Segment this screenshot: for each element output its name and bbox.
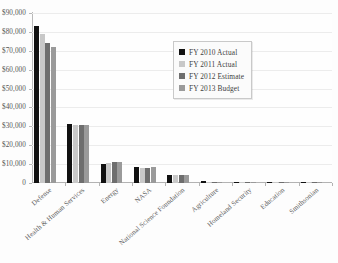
- bar: [306, 182, 311, 183]
- bar: [101, 164, 106, 183]
- y-axis-tick: [29, 51, 32, 52]
- bar: [284, 182, 289, 183]
- y-axis-line: [32, 12, 33, 183]
- bar: [217, 182, 222, 184]
- y-axis-tick: [29, 126, 32, 127]
- y-axis-tick: [29, 183, 32, 184]
- x-axis-label: Energy: [99, 186, 120, 206]
- bar: [234, 182, 239, 183]
- chart-legend: FY 2010 ActualFY 2011 ActualFY 2012 Esti…: [173, 41, 252, 99]
- legend-swatch-icon: [179, 49, 185, 55]
- x-axis-tick: [132, 183, 133, 186]
- y-axis-tick: [29, 13, 32, 14]
- x-axis-label: Defense: [30, 186, 53, 208]
- y-axis-tick: [29, 145, 32, 146]
- x-axis-label: National Science Foundation: [118, 186, 187, 247]
- legend-label: FY 2012 Estimate: [189, 72, 244, 81]
- legend-item[interactable]: FY 2010 Actual: [179, 46, 244, 58]
- bar: [206, 182, 211, 183]
- bar: [134, 167, 139, 183]
- bar: [279, 182, 284, 183]
- legend-label: FY 2010 Actual: [189, 48, 237, 57]
- x-axis-label: Agriculture: [189, 186, 219, 214]
- y-axis-label: $10,000: [0, 160, 26, 168]
- bar: [145, 168, 150, 183]
- bar: [151, 167, 156, 183]
- x-axis-tick: [232, 183, 233, 186]
- x-axis-label-anchor: Homeland Security: [248, 186, 249, 187]
- bar: [267, 182, 272, 183]
- legend-item[interactable]: FY 2012 Estimate: [179, 70, 244, 82]
- legend-item[interactable]: FY 2013 Budget: [179, 82, 244, 94]
- bar: [51, 47, 56, 183]
- x-axis-label-anchor: Defense: [48, 186, 49, 187]
- bar: [201, 181, 206, 183]
- bar: [179, 175, 184, 183]
- x-axis-tick: [65, 183, 66, 186]
- bar: [106, 163, 111, 183]
- x-axis-label-anchor: National Science Foundation: [181, 186, 182, 187]
- bar: [73, 125, 78, 183]
- y-axis-tick: [29, 107, 32, 108]
- legend-swatch-icon: [179, 85, 185, 91]
- bar: [84, 125, 89, 183]
- y-axis-tick: [29, 70, 32, 71]
- x-axis-tick: [299, 183, 300, 186]
- y-axis-label: 0: [0, 179, 26, 187]
- y-axis-tick: [29, 164, 32, 165]
- bar: [245, 182, 250, 183]
- bar-group: [134, 13, 156, 183]
- bar-group: [267, 13, 289, 183]
- bar: [301, 182, 306, 183]
- legend-label: FY 2011 Actual: [189, 60, 237, 69]
- x-axis-label-anchor: Agriculture: [215, 186, 216, 187]
- y-axis-tick: [29, 32, 32, 33]
- legend-label: FY 2013 Budget: [189, 84, 239, 93]
- legend-item[interactable]: FY 2011 Actual: [179, 58, 244, 70]
- bar: [317, 182, 322, 183]
- x-axis-label: NASA: [133, 186, 153, 205]
- x-axis-tick: [265, 183, 266, 186]
- y-axis-label: $60,000: [0, 66, 26, 74]
- bar: [140, 168, 145, 183]
- y-axis-tick: [29, 89, 32, 90]
- y-axis-label: $80,000: [0, 28, 26, 36]
- bar: [312, 182, 317, 183]
- y-axis-label: $70,000: [0, 47, 26, 55]
- bar-group: [101, 13, 123, 183]
- bar: [34, 26, 39, 183]
- bar: [251, 182, 256, 183]
- x-axis-label-anchor: Energy: [115, 186, 116, 187]
- x-axis-label-anchor: NASA: [148, 186, 149, 187]
- x-axis-tick: [199, 183, 200, 186]
- x-axis-label-anchor: Smithsonian: [315, 186, 316, 187]
- chart-title-fragment: [150, 0, 260, 6]
- x-axis-label: Smithsonian: [287, 186, 320, 216]
- bar: [273, 182, 278, 183]
- x-axis-tick: [332, 183, 333, 186]
- legend-swatch-icon: [179, 73, 185, 79]
- x-axis-tick: [165, 183, 166, 186]
- y-axis-label: $40,000: [0, 103, 26, 111]
- bar-chart: $90,000$80,000$70,000$60,000$50,000$40,0…: [0, 0, 338, 263]
- bar-group: [67, 13, 89, 183]
- bar: [212, 182, 217, 184]
- x-axis-label-anchor: Health & Human Services: [81, 186, 82, 187]
- bar: [173, 175, 178, 183]
- y-axis-label: $20,000: [0, 141, 26, 149]
- bar: [117, 162, 122, 183]
- bar: [112, 162, 117, 183]
- x-axis-tick: [99, 183, 100, 186]
- bar: [45, 43, 50, 183]
- y-axis-label: $90,000: [0, 9, 26, 17]
- x-axis-label: Health & Human Services: [24, 186, 87, 242]
- bar: [40, 34, 45, 183]
- y-axis-label: $50,000: [0, 85, 26, 93]
- bar: [240, 182, 245, 183]
- bar: [184, 175, 189, 183]
- bar: [79, 125, 84, 183]
- legend-swatch-icon: [179, 61, 185, 67]
- x-axis-label: Education: [259, 186, 286, 211]
- bar-group: [301, 13, 323, 183]
- bar: [167, 175, 172, 183]
